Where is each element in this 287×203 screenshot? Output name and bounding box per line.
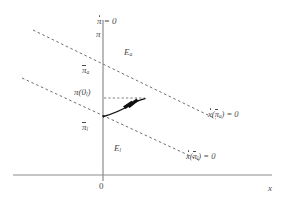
pi-bar-glyph-a: π	[82, 66, 87, 75]
origin-label: 0	[99, 182, 104, 191]
pi-dot-glyph: π	[97, 17, 102, 26]
x-axis-label: x	[268, 184, 272, 193]
trajectory-start-marker	[102, 115, 104, 117]
x-dot-glyph-l: x	[186, 152, 190, 161]
pi-zero-l-open: (0	[79, 87, 87, 97]
pi-zero-l-close: )	[88, 87, 91, 97]
region-E-a-subscript: a	[130, 51, 133, 57]
pi-axis-label: π	[96, 30, 101, 39]
nullcline-xdot-pibar-l	[22, 78, 201, 161]
region-label-E-a: Ea	[124, 48, 132, 58]
equals-zero-text: = 0	[102, 16, 117, 26]
xdot-a-equals-text: = 0	[227, 109, 239, 119]
pi-bar-glyph-l: π	[82, 123, 87, 132]
pi-dot-equals-zero-label: π = 0	[97, 17, 117, 26]
pi-bar-l-label: πl	[82, 123, 88, 133]
region-label-E-l: El	[114, 144, 121, 154]
pi-of-zero-l-label: π(0l)	[74, 88, 91, 98]
xdot-l-pi-bar: π	[193, 152, 197, 161]
phase-diagram-figure: π = 0 π πa π(0l) πl Ea El x(πa) = 0 x(πl…	[0, 0, 287, 203]
diagram-canvas	[0, 0, 287, 203]
xdot-a-pi-bar: π	[215, 110, 219, 119]
region-E-l-subscript: l	[120, 147, 122, 153]
pi-bar-a-label: πa	[82, 66, 89, 76]
xdot-l-equals-text: = 0	[203, 151, 215, 161]
x-dot-glyph-a: x	[208, 110, 212, 119]
nullcline-label-xdot-pibar-a: x(πa) = 0	[208, 110, 239, 119]
nullcline-label-xdot-pibar-l: x(πl) = 0	[186, 152, 215, 161]
